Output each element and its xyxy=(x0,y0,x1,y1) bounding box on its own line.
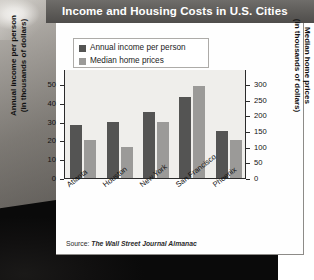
right-tick-mark xyxy=(246,179,250,180)
chart-legend: Annual income per person Median home pri… xyxy=(73,38,209,68)
right-axis-title: Median home prices (in thousands of doll… xyxy=(293,14,312,118)
right-tick-mark xyxy=(246,116,250,117)
legend-label-income: Annual income per person xyxy=(90,43,186,53)
bars-layer xyxy=(65,70,245,178)
right-tick-mark xyxy=(246,132,250,133)
right-tick-label: 50 xyxy=(254,159,274,167)
left-tick-label: 0 xyxy=(40,175,56,183)
bar-group xyxy=(211,70,247,178)
left-tick-label: 20 xyxy=(40,137,56,145)
left-tick-mark xyxy=(60,85,64,86)
bar-group xyxy=(65,70,101,178)
left-tick-label: 10 xyxy=(40,156,56,164)
legend-item-income: Annual income per person xyxy=(79,42,203,54)
right-tick-mark xyxy=(246,101,250,102)
right-tick-label: 150 xyxy=(254,128,274,136)
left-tick-mark xyxy=(60,160,64,161)
legend-label-housing: Median home prices xyxy=(90,56,164,66)
source-name: The Wall Street Journal Almanac xyxy=(91,240,196,247)
right-tick-label: 100 xyxy=(254,144,274,152)
legend-swatch-income xyxy=(79,45,86,52)
left-axis-title: Annual income per person (in thousands o… xyxy=(9,14,28,118)
bar-group xyxy=(138,70,174,178)
right-tick-mark xyxy=(246,163,250,164)
page-title: Income and Housing Costs in U.S. Cities xyxy=(62,4,310,19)
right-tick-mark xyxy=(246,148,250,149)
right-tick-label: 0 xyxy=(254,175,274,183)
right-tick-label: 200 xyxy=(254,112,274,120)
chart-page: Income and Housing Costs in U.S. Cities … xyxy=(0,0,314,280)
legend-swatch-housing xyxy=(79,58,86,65)
bar-income xyxy=(143,112,155,178)
left-tick-mark xyxy=(60,141,64,142)
left-tick-mark xyxy=(60,179,64,180)
left-tick-mark xyxy=(60,104,64,105)
right-tick-label: 250 xyxy=(254,97,274,105)
right-tick-mark xyxy=(246,85,250,86)
source-note: Source: The Wall Street Journal Almanac xyxy=(66,239,197,248)
bar-income xyxy=(179,97,191,178)
left-tick-mark xyxy=(60,123,64,124)
source-prefix: Source: xyxy=(66,240,91,247)
legend-item-housing: Median home prices xyxy=(79,55,203,67)
right-tick-label: 300 xyxy=(254,81,274,89)
left-tick-label: 30 xyxy=(40,119,56,127)
left-tick-label: 50 xyxy=(40,81,56,89)
plot-area xyxy=(64,70,246,179)
bar-group xyxy=(101,70,137,178)
left-tick-label: 40 xyxy=(40,100,56,108)
